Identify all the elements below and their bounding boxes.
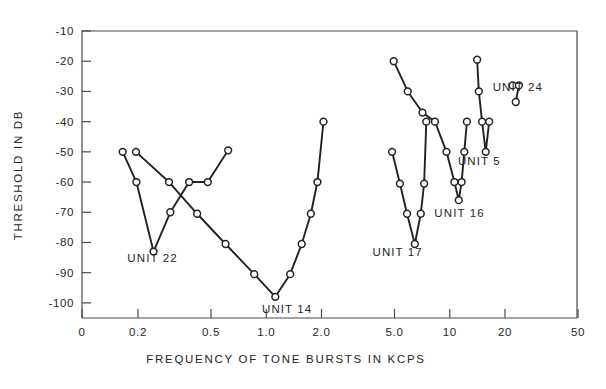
data-point-unit-16-6 (455, 197, 462, 204)
data-point-unit-14-6 (287, 271, 294, 278)
x-tick-label-0: 0 (79, 326, 86, 338)
data-point-unit-22-0 (119, 148, 126, 155)
y-tick-label-7: -80 (56, 236, 74, 248)
y-tick-label-6: -70 (56, 206, 74, 218)
data-point-unit-16-0 (390, 58, 397, 65)
axis-frame-group (82, 31, 577, 318)
data-point-unit-16-9 (464, 118, 471, 125)
series-label-unit-22: UNIT 22 (127, 252, 177, 264)
x-tick-label-6: 10 (443, 326, 457, 338)
data-point-unit-14-4 (251, 271, 258, 278)
x-axis-title: FREQUENCY OF TONE BURSTS IN KCPS (146, 353, 425, 365)
data-point-unit-22-5 (204, 179, 211, 186)
data-point-unit-16-4 (443, 148, 450, 155)
data-point-unit-14-1 (166, 179, 173, 186)
data-point-unit-14-2 (194, 210, 201, 217)
data-point-unit-16-1 (404, 88, 411, 95)
x-tick-label-2: 0.5 (202, 326, 220, 338)
data-point-unit-16-5 (451, 179, 458, 186)
data-point-unit-22-3 (167, 209, 174, 216)
data-point-unit-22-1 (133, 179, 140, 186)
data-point-unit-5-1 (475, 88, 482, 95)
data-point-unit-5-4 (486, 118, 493, 125)
data-point-unit-14-3 (222, 241, 229, 248)
series-label-unit-5: UNIT 5 (458, 155, 501, 167)
data-point-unit-24-2 (512, 99, 519, 106)
x-tick-label-1: 0.2 (129, 326, 147, 338)
data-point-unit-22-6 (225, 147, 232, 154)
x-tick-label-8: 50 (571, 326, 585, 338)
data-curves (123, 60, 519, 297)
data-point-unit-16-8 (461, 148, 468, 155)
data-point-unit-5-2 (479, 118, 486, 125)
data-point-unit-17-2 (404, 210, 411, 217)
y-tick-label-5: -60 (56, 176, 74, 188)
x-tick-label-3: 1.0 (257, 326, 275, 338)
data-point-unit-5-0 (474, 56, 481, 63)
x-tick-label-5: 5.0 (386, 326, 404, 338)
data-point-unit-14-9 (314, 179, 321, 186)
data-point-unit-14-5 (272, 293, 279, 300)
data-point-unit-17-0 (389, 148, 396, 155)
data-point-unit-14-10 (320, 118, 327, 125)
y-axis-ticks (82, 31, 91, 303)
data-point-unit-16-2 (419, 109, 426, 116)
chart-canvas: 00.20.51.02.05.0102050 -10-20-30-40-50-6… (0, 0, 606, 389)
data-point-unit-5-3 (482, 148, 489, 155)
x-axis-ticks (82, 309, 578, 318)
x-axis-tick-labels: 00.20.51.02.05.0102050 (79, 326, 586, 338)
y-tick-label-4: -50 (56, 146, 74, 158)
data-point-unit-17-5 (421, 180, 428, 187)
y-tick-label-0: -10 (56, 25, 74, 37)
threshold-frequency-chart: 00.20.51.02.05.0102050 -10-20-30-40-50-6… (0, 0, 606, 389)
series-label-unit-14: UNIT 14 (262, 303, 312, 315)
data-point-unit-17-1 (397, 180, 404, 187)
curve-unit-5 (477, 60, 489, 152)
y-tick-label-2: -30 (56, 85, 74, 97)
y-axis-title: THRESHOLD IN DB (12, 110, 24, 240)
data-markers (119, 56, 522, 300)
y-axis-tick-labels: -10-20-30-40-50-60-70-80-90-100 (49, 25, 74, 309)
plot-frame (82, 31, 577, 318)
series-label-unit-16: UNIT 16 (434, 207, 484, 219)
curve-unit-22 (123, 150, 228, 251)
y-tick-label-1: -20 (56, 55, 74, 67)
data-point-unit-14-0 (133, 148, 140, 155)
y-tick-label-8: -90 (56, 267, 74, 279)
data-point-unit-14-8 (307, 210, 314, 217)
y-tick-label-9: -100 (49, 297, 74, 309)
data-point-unit-17-6 (423, 118, 430, 125)
series-label-unit-24: UNIT 24 (493, 81, 543, 93)
x-tick-label-4: 2.0 (313, 326, 331, 338)
data-point-unit-22-4 (186, 179, 193, 186)
y-tick-label-3: -40 (56, 116, 74, 128)
x-tick-label-7: 20 (498, 326, 512, 338)
series-label-unit-17: UNIT 17 (372, 246, 422, 258)
data-point-unit-14-7 (298, 241, 305, 248)
data-point-unit-17-4 (417, 210, 424, 217)
data-point-unit-16-7 (458, 179, 465, 186)
data-point-unit-16-3 (432, 118, 439, 125)
